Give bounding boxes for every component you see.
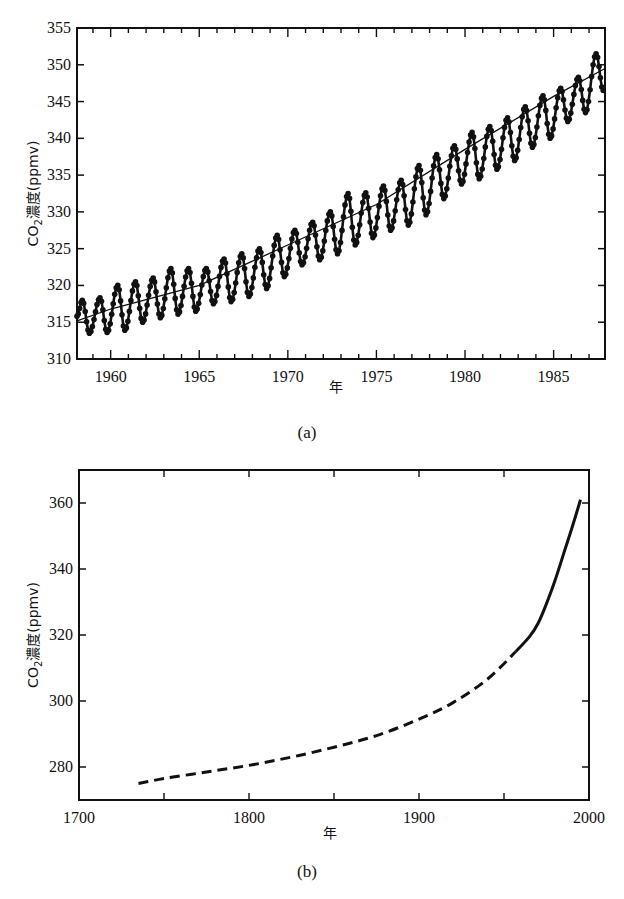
- data-point: [251, 275, 257, 281]
- data-point: [354, 240, 360, 246]
- data-point: [223, 260, 229, 266]
- data-point: [418, 168, 424, 174]
- data-point: [443, 193, 449, 199]
- data-point: [518, 125, 524, 131]
- data-point: [491, 152, 497, 158]
- data-point: [490, 139, 496, 145]
- data-point: [342, 202, 348, 208]
- data-point: [268, 265, 274, 271]
- y-tick-label: 280: [49, 758, 73, 775]
- data-point: [472, 146, 478, 152]
- data-point: [513, 155, 519, 161]
- data-point: [382, 188, 388, 194]
- data-point: [336, 248, 342, 254]
- y-tick-label: 320: [49, 626, 73, 643]
- data-point: [403, 207, 409, 213]
- chart-a-caption: (a): [298, 423, 317, 442]
- y-label-text: CO: [25, 226, 41, 247]
- data-point: [348, 209, 354, 215]
- data-point: [91, 317, 97, 323]
- data-point: [94, 302, 100, 308]
- data-point: [276, 237, 282, 243]
- data-point: [286, 256, 292, 262]
- data-point: [533, 135, 539, 141]
- data-point: [367, 219, 373, 225]
- data-point: [567, 116, 573, 122]
- data-point: [307, 227, 313, 233]
- data-point: [164, 285, 170, 291]
- data-point: [355, 232, 361, 238]
- data-point: [82, 309, 88, 315]
- x-tick-label: 1985: [538, 368, 570, 385]
- data-point: [302, 254, 308, 260]
- data-point: [201, 274, 207, 280]
- data-point: [144, 302, 150, 308]
- data-point: [226, 284, 232, 290]
- data-point: [106, 327, 112, 333]
- data-point: [407, 219, 413, 225]
- data-point: [409, 211, 415, 217]
- data-point: [465, 150, 471, 156]
- data-point: [196, 300, 202, 306]
- data-point: [435, 156, 441, 162]
- data-point: [456, 168, 462, 174]
- data-point: [483, 144, 489, 150]
- data-point: [260, 260, 266, 266]
- data-point: [587, 87, 593, 93]
- data-point: [596, 64, 602, 70]
- data-point: [102, 318, 108, 324]
- data-point: [243, 279, 249, 285]
- data-point: [549, 133, 555, 139]
- chart-b-x-axis: 1700180019002000: [63, 470, 605, 826]
- data-point: [125, 318, 131, 324]
- y-tick-label: 335: [47, 166, 71, 183]
- chart-a-co2-monthly: 310315320325330335340345350355 196019651…: [25, 19, 606, 442]
- data-point: [562, 107, 568, 113]
- data-point: [580, 98, 586, 104]
- data-point: [544, 121, 550, 127]
- data-point: [159, 313, 165, 319]
- data-point: [271, 243, 277, 249]
- data-point: [364, 194, 370, 200]
- data-point: [233, 280, 239, 286]
- data-point: [77, 305, 83, 311]
- chart-b-y-axis: 280300320340360: [49, 494, 589, 775]
- data-point: [190, 294, 196, 300]
- data-point: [392, 208, 398, 214]
- data-point: [267, 276, 273, 282]
- data-point: [553, 105, 559, 111]
- data-point: [171, 282, 177, 288]
- data-point: [265, 283, 271, 289]
- data-point: [172, 296, 178, 302]
- y-tick-label: 340: [49, 560, 73, 577]
- data-point: [444, 186, 450, 192]
- data-point: [127, 309, 133, 315]
- data-point: [84, 319, 90, 325]
- chart-a-y-axis-title: CO2濃度(ppmv): [25, 141, 44, 247]
- data-point: [258, 250, 264, 256]
- data-point: [425, 209, 431, 215]
- y-tick-label: 300: [49, 692, 73, 709]
- data-point: [446, 175, 452, 181]
- data-point: [130, 288, 136, 294]
- data-point: [189, 281, 195, 287]
- data-point: [584, 107, 590, 113]
- data-point: [481, 156, 487, 162]
- chart-b-co2-historical: 280300320340360 1700180019002000 CO2濃度(p…: [25, 470, 605, 881]
- series-ice-core-dashed: [139, 652, 516, 784]
- y-tick-label: 360: [49, 494, 73, 511]
- figure-canvas: 310315320325330335340345350355 196019651…: [0, 0, 624, 899]
- data-point: [595, 55, 601, 61]
- chart-a-x-axis: 196019651970197519801985: [93, 28, 589, 385]
- x-tick-label: 1800: [233, 809, 265, 826]
- data-point: [136, 293, 142, 299]
- data-point: [76, 311, 82, 317]
- data-point: [410, 199, 416, 205]
- data-point: [155, 301, 161, 307]
- data-point: [214, 293, 220, 299]
- data-point: [462, 171, 468, 177]
- x-tick-label: 1975: [360, 368, 392, 385]
- data-point: [345, 191, 351, 197]
- y-tick-label: 320: [47, 276, 71, 293]
- data-point: [571, 92, 577, 98]
